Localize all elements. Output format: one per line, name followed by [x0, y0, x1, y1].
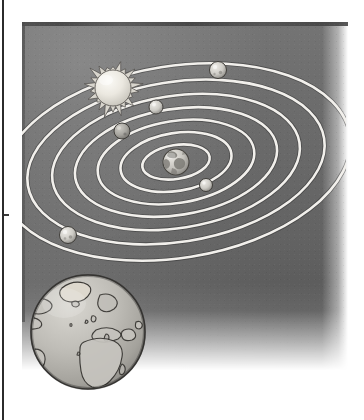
planet-disc: [60, 227, 77, 244]
planet-disc: [210, 62, 227, 79]
planet-outer-lower-left: [60, 227, 77, 244]
celestial-bodies-layer: [0, 0, 364, 420]
planet-crater: [219, 71, 222, 74]
illustration-canvas: Geocentric (Ptolemaic) solar system illu…: [0, 0, 364, 420]
planet-crater: [69, 235, 73, 239]
planet-highlight: [63, 230, 67, 234]
planet-crater: [123, 132, 126, 135]
planet-disc: [114, 123, 130, 139]
planet-highlight: [152, 103, 156, 107]
sun: [84, 62, 143, 118]
inner-planet-moon: [200, 179, 213, 192]
earth-center-highlight: [167, 153, 176, 159]
sun-disc: [95, 70, 131, 106]
sun-highlight: [99, 75, 113, 85]
moon-highlight: [202, 181, 205, 184]
planet-crater: [213, 73, 215, 75]
planet-crater: [64, 237, 67, 240]
planet-disc: [149, 100, 163, 114]
foreground-earth-globe: [23, 275, 145, 389]
planet-highlight: [117, 126, 121, 130]
moon-disc: [200, 179, 213, 192]
planet-highlight: [213, 65, 217, 69]
planet-below-sun: [114, 123, 130, 139]
earth-center-planet: [162, 149, 189, 176]
planet-upper-right: [149, 100, 163, 114]
planet-outer-upper-right: [210, 62, 227, 79]
